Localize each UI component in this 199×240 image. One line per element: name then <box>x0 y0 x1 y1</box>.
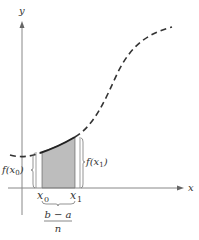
x0-subscript: 0 <box>44 195 49 204</box>
f-x0-label: f(x0) <box>1 164 24 177</box>
width-denominator: n <box>55 223 61 234</box>
function-curve <box>10 153 40 157</box>
function-curve-upper <box>75 27 172 137</box>
y-axis-label: y <box>18 5 25 16</box>
f-x1-brace <box>81 138 85 188</box>
f-x0-brace <box>31 153 35 188</box>
y-axis-arrow-icon <box>20 21 25 28</box>
x-axis-label: x <box>188 182 194 193</box>
x1-label: x <box>70 189 77 202</box>
x1-subscript: 1 <box>77 195 82 204</box>
x0-label: x <box>37 189 44 202</box>
width-numerator: b − a <box>44 209 71 220</box>
riemann-sum-diagram: y x x 0 x 1 f(x0) f(x1) b − a n <box>0 0 199 240</box>
x-axis-arrow-icon <box>177 186 184 191</box>
f-x1-label: f(x1) <box>85 156 108 169</box>
